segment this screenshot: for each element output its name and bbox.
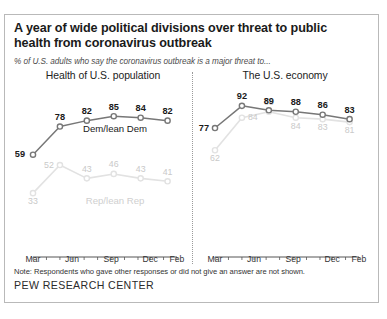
panel-title-economy: The U.S. economy (197, 70, 373, 81)
data-label: 82 (162, 106, 172, 116)
x-axis-tick-label: Sep (103, 254, 118, 264)
series-line-dem (33, 116, 168, 154)
x-axis-tick-label: Dec (324, 254, 339, 264)
data-point-marker (212, 125, 217, 130)
data-point-marker (138, 115, 143, 120)
data-point-marker (84, 118, 89, 123)
data-label: 86 (318, 100, 328, 110)
data-label: 46 (109, 159, 119, 169)
data-point-marker (212, 148, 217, 153)
series-annotation-dem: Dem/lean Dem (83, 123, 147, 134)
data-label: 84 (136, 103, 147, 113)
data-point-marker (293, 109, 298, 114)
data-label: 83 (344, 105, 354, 115)
x-axis-tick-label: Mar (208, 254, 223, 264)
chart-note: Note: Respondents who gave other respons… (14, 267, 370, 276)
data-point-marker (57, 162, 62, 167)
data-label: 92 (237, 91, 247, 101)
data-label: 52 (44, 160, 54, 170)
data-point-marker (320, 112, 325, 117)
x-axis-health: MarJunSepDecFeb (15, 248, 191, 264)
data-point-marker (293, 115, 298, 120)
data-point-marker (111, 114, 116, 119)
data-label: 43 (136, 164, 146, 174)
plot-area-economy: 628488848381779289888683 (197, 86, 373, 246)
data-point-marker (138, 176, 143, 181)
x-axis-tick-label: Jun (65, 254, 79, 264)
data-point-marker (165, 179, 170, 184)
data-label: 78 (55, 112, 65, 122)
x-axis-economy: MarJunSepDecFeb (197, 248, 373, 264)
data-point-marker (111, 171, 116, 176)
chart-source: PEW RESEARCH CENTER (14, 279, 154, 291)
data-label: 82 (82, 106, 92, 116)
data-label: 84 (291, 121, 301, 131)
x-axis-tick-label: Mar (26, 254, 41, 264)
data-label: 59 (15, 149, 25, 159)
x-axis-tick-label: Sep (285, 254, 300, 264)
data-point-marker (347, 117, 352, 122)
x-axis-tick-label: Dec (142, 254, 157, 264)
data-point-marker (239, 115, 244, 120)
chart-subtitle: % of U.S. adults who say the coronavirus… (14, 57, 370, 66)
panel-title-health: Health of U.S. population (15, 70, 191, 81)
data-label: 88 (291, 97, 301, 107)
chart-title: A year of wide political divisions over … (14, 21, 366, 51)
data-label: 33 (28, 196, 38, 206)
panel-economy: The U.S. economy 62848884838177928988868… (197, 70, 373, 265)
plot-area-health: 335243464341597882858482Dem/lean DemRep/… (15, 86, 191, 246)
data-label: 89 (264, 96, 274, 106)
data-point-marker (84, 176, 89, 181)
panel-divider (192, 72, 193, 264)
x-axis-tick-label: Feb (170, 254, 185, 264)
data-point-marker (30, 152, 35, 157)
data-point-marker (266, 108, 271, 113)
data-label: 43 (82, 164, 92, 174)
x-axis-tick-label: Feb (352, 254, 367, 264)
series-annotation-rep: Rep/lean Rep (86, 195, 145, 206)
series-line-rep (215, 112, 350, 150)
data-label: 62 (210, 153, 220, 163)
x-axis-tick-label: Jun (247, 254, 261, 264)
data-point-marker (57, 124, 62, 129)
chart-figure: A year of wide political divisions over … (4, 14, 379, 303)
panel-health: Health of U.S. population 33524346434159… (15, 70, 191, 265)
data-label: 41 (163, 167, 173, 177)
data-label: 81 (345, 125, 355, 135)
data-point-marker (165, 118, 170, 123)
data-point-marker (30, 191, 35, 196)
data-label: 84 (248, 112, 258, 122)
data-point-marker (239, 103, 244, 108)
data-label: 83 (318, 122, 328, 132)
data-label: 77 (199, 123, 209, 133)
data-label: 85 (109, 102, 119, 112)
